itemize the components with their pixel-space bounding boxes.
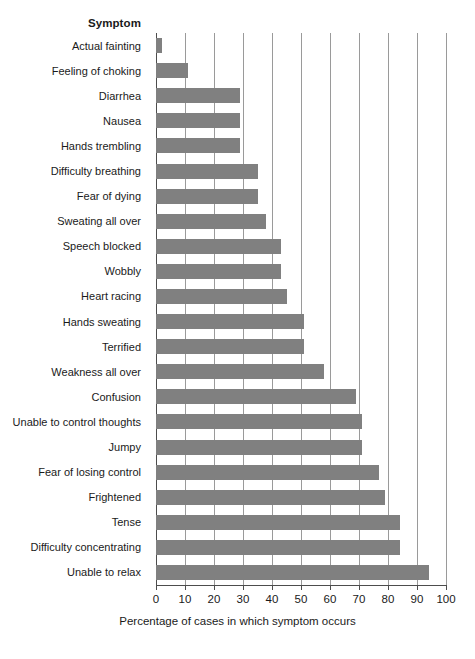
bar bbox=[156, 314, 304, 329]
category-label: Actual fainting bbox=[72, 40, 141, 52]
x-tick-label: 100 bbox=[426, 593, 466, 605]
bar bbox=[156, 164, 258, 179]
bar bbox=[156, 113, 240, 128]
bar bbox=[156, 515, 400, 530]
category-label: Unable to relax bbox=[67, 566, 141, 578]
category-label: Tense bbox=[112, 516, 141, 528]
bar bbox=[156, 88, 240, 103]
category-label: Fear of losing control bbox=[38, 466, 141, 478]
x-tick bbox=[214, 585, 215, 590]
plot-area bbox=[156, 33, 446, 585]
category-label: Heart racing bbox=[81, 290, 141, 302]
bar bbox=[156, 63, 188, 78]
category-label: Weakness all over bbox=[51, 366, 141, 378]
category-label: Sweating all over bbox=[57, 215, 141, 227]
gridline-90 bbox=[417, 33, 418, 585]
x-tick bbox=[388, 585, 389, 590]
category-label: Terrified bbox=[102, 341, 141, 353]
plot-wrapper: Symptom Actual faintingFeeling of chokin… bbox=[0, 0, 475, 600]
category-label: Diarrhea bbox=[99, 90, 141, 102]
category-label: Unable to control thoughts bbox=[13, 416, 141, 428]
category-label: Jumpy bbox=[109, 441, 141, 453]
bar bbox=[156, 214, 266, 229]
x-tick bbox=[156, 585, 157, 590]
y-axis-header: Symptom bbox=[88, 17, 141, 29]
bar bbox=[156, 565, 429, 580]
x-tick bbox=[417, 585, 418, 590]
bar bbox=[156, 289, 287, 304]
bar bbox=[156, 138, 240, 153]
bar bbox=[156, 465, 379, 480]
category-label: Fear of dying bbox=[77, 190, 141, 202]
bar bbox=[156, 38, 162, 53]
bar bbox=[156, 540, 400, 555]
x-tick bbox=[301, 585, 302, 590]
bar bbox=[156, 490, 385, 505]
category-label: Frightened bbox=[88, 491, 141, 503]
x-tick bbox=[185, 585, 186, 590]
x-tick bbox=[330, 585, 331, 590]
category-label: Difficulty breathing bbox=[51, 165, 141, 177]
category-label: Wobbly bbox=[105, 265, 141, 277]
gridline-80 bbox=[388, 33, 389, 585]
category-label: Difficulty concentrating bbox=[31, 541, 141, 553]
x-axis-title: Percentage of cases in which symptom occ… bbox=[0, 615, 475, 627]
bar-chart: Symptom Actual faintingFeeling of chokin… bbox=[0, 0, 475, 659]
category-label: Hands trembling bbox=[61, 140, 141, 152]
bar bbox=[156, 339, 304, 354]
category-label: Hands sweating bbox=[63, 316, 141, 328]
bar bbox=[156, 364, 324, 379]
x-tick bbox=[359, 585, 360, 590]
bar bbox=[156, 264, 281, 279]
bar bbox=[156, 189, 258, 204]
x-tick bbox=[446, 585, 447, 590]
bar bbox=[156, 440, 362, 455]
bar bbox=[156, 414, 362, 429]
category-label: Confusion bbox=[91, 391, 141, 403]
category-label: Feeling of choking bbox=[52, 65, 141, 77]
bar bbox=[156, 389, 356, 404]
bar bbox=[156, 239, 281, 254]
x-tick bbox=[272, 585, 273, 590]
category-label: Speech blocked bbox=[63, 240, 141, 252]
x-tick bbox=[243, 585, 244, 590]
category-label: Nausea bbox=[103, 115, 141, 127]
gridline-100 bbox=[446, 33, 447, 585]
